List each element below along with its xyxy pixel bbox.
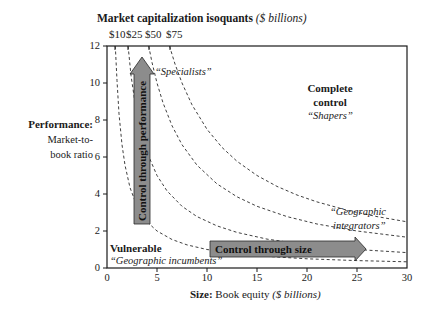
- label-specialists: “Specialists”: [155, 66, 212, 77]
- label-control: control: [300, 96, 360, 108]
- label-geographic-integrators-2: integrators”: [333, 220, 386, 231]
- label-complete: Complete: [300, 82, 360, 94]
- plot-area: Control through performance Control thro…: [0, 0, 429, 318]
- label-vulnerable: Vulnerable: [110, 242, 162, 254]
- arrow-perf-label: Control through performance: [136, 81, 148, 221]
- label-shapers: “Shapers”: [300, 110, 360, 121]
- label-geographic-incumbents: “Geographic incumbents”: [110, 255, 222, 266]
- label-geographic-integrators-1: “Geographic: [330, 206, 386, 217]
- x-tick-marks: [157, 268, 357, 272]
- plot-frame: [107, 46, 407, 268]
- arrow-size-label: Control through size: [215, 243, 312, 255]
